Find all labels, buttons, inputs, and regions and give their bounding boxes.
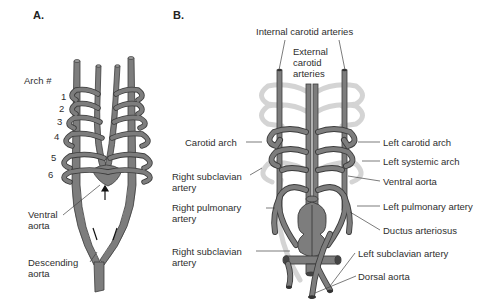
internal-carotid-label: Internal carotid arteries bbox=[256, 26, 353, 37]
right-subclavian-top-label: Right subclavian artery bbox=[172, 171, 242, 193]
right-pulmonary-label: Right pulmonary artery bbox=[172, 202, 241, 224]
carotid-arch-label: Carotid arch bbox=[185, 137, 237, 148]
external-carotid-label: External carotid arteries bbox=[293, 46, 328, 79]
ductus-arteriosus-label: Ductus arteriosus bbox=[383, 225, 457, 236]
dorsal-aorta-label: Dorsal aorta bbox=[358, 271, 410, 282]
right-subclavian-bottom-label: Right subclavian artery bbox=[172, 246, 242, 268]
left-subclavian-artery-label: Left subclavian artery bbox=[358, 248, 448, 259]
left-carotid-arch-label: Left carotid arch bbox=[383, 137, 451, 148]
ventral-aorta-label-b: Ventral aorta bbox=[383, 176, 437, 187]
left-pulmonary-artery-label: Left pulmonary artery bbox=[383, 201, 473, 212]
left-systemic-arch-label: Left systemic arch bbox=[383, 156, 460, 167]
